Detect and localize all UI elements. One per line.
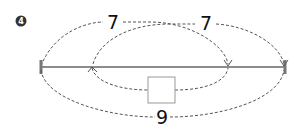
bottom-total-label: 9 — [156, 106, 168, 128]
top-right-arc — [93, 24, 284, 64]
top-right-label: 7 — [200, 12, 212, 34]
arrowhead-inner-right — [224, 60, 232, 66]
number-line-diagram: 4 7 7 9 — [0, 0, 302, 133]
problem-number: 4 — [18, 17, 24, 26]
top-left-label: 7 — [107, 11, 119, 33]
answer-box[interactable] — [148, 77, 175, 103]
problem-number-badge: 4 — [16, 16, 27, 27]
